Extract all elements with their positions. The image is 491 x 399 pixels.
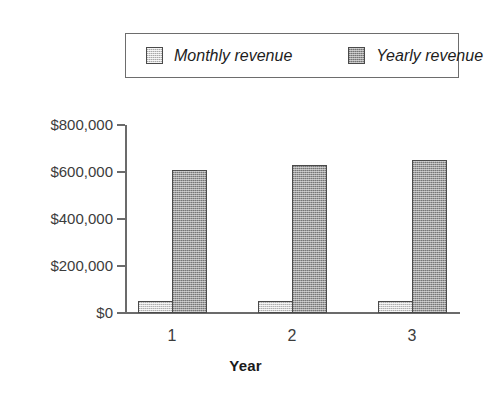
bar-yearly-year-1 bbox=[172, 170, 207, 313]
legend-label-monthly: Monthly revenue bbox=[174, 47, 292, 65]
x-axis-tick-label: 2 bbox=[262, 327, 322, 345]
y-axis-tick-mark bbox=[117, 124, 125, 126]
y-axis-tick-label: $400,000 bbox=[3, 210, 113, 227]
legend-item-monthly-revenue: Monthly revenue bbox=[146, 47, 292, 65]
bar-monthly-year-1 bbox=[138, 301, 173, 313]
legend-swatch-yearly-icon bbox=[348, 47, 365, 64]
y-axis-tick-label: $200,000 bbox=[3, 257, 113, 274]
bar-group bbox=[258, 125, 326, 313]
bar-monthly-year-3 bbox=[378, 301, 413, 313]
bar-yearly-year-3 bbox=[412, 160, 447, 313]
y-axis-tick-label: $800,000 bbox=[3, 116, 113, 133]
bar-yearly-year-2 bbox=[292, 165, 327, 313]
legend-swatch-monthly-icon bbox=[146, 47, 163, 64]
x-axis-tick-label: 3 bbox=[382, 327, 442, 345]
legend-label-yearly: Yearly revenue bbox=[376, 47, 483, 65]
y-axis-tick-mark bbox=[117, 312, 125, 314]
y-axis-tick-mark bbox=[117, 171, 125, 173]
x-axis-tick-label: 1 bbox=[142, 327, 202, 345]
y-axis-tick-label: $600,000 bbox=[3, 163, 113, 180]
bar-monthly-year-2 bbox=[258, 301, 293, 313]
plot-area bbox=[127, 125, 460, 313]
bar-group bbox=[138, 125, 206, 313]
y-axis-tick-mark bbox=[117, 218, 125, 220]
chart-legend: Monthly revenue Yearly revenue bbox=[125, 33, 459, 78]
legend-item-yearly-revenue: Yearly revenue bbox=[348, 47, 483, 65]
bar-group bbox=[378, 125, 446, 313]
x-axis-title: Year bbox=[0, 357, 491, 374]
y-axis-tick-mark bbox=[117, 265, 125, 267]
y-axis-tick-label: $0 bbox=[3, 304, 113, 321]
bar-chart: Monthly revenue Yearly revenue $0$200,00… bbox=[0, 0, 491, 399]
